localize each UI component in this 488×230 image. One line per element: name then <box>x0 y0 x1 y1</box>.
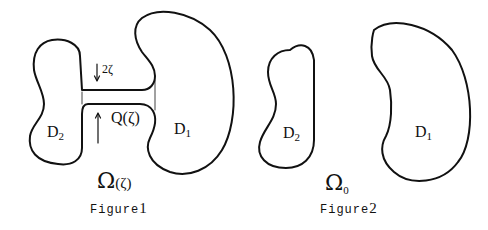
d2-subscript: 2 <box>295 131 301 143</box>
fig1-channel-label: Q(ζ) <box>111 110 140 126</box>
omega-symbol: Ω <box>97 168 115 193</box>
fig1-label-d1: D1 <box>174 121 191 139</box>
d1-letter: D <box>174 120 186 137</box>
fig1-region-label: Ω(ζ) <box>97 170 131 192</box>
omega-subscript: 0 <box>343 184 349 196</box>
figure2-d2-outline <box>259 45 314 168</box>
omega-symbol: Ω <box>325 170 343 195</box>
d2-subscript: 2 <box>59 130 65 142</box>
d2-letter: D <box>47 123 59 140</box>
figure2-d1-outline <box>371 23 470 181</box>
caption-text: Figure <box>320 203 369 217</box>
d2-letter: D <box>283 124 295 141</box>
fig2-caption: Figure2 <box>320 200 378 217</box>
caption-number: 2 <box>369 200 378 216</box>
d1-subscript: 1 <box>186 127 192 139</box>
fig1-caption: Figure1 <box>90 200 148 217</box>
fig2-region-label: Ω0 <box>325 172 349 196</box>
d1-letter: D <box>415 123 427 140</box>
omega-arg: (ζ) <box>115 175 131 191</box>
figure1-region-outline <box>30 12 234 174</box>
fig1-label-d2: D2 <box>47 124 64 142</box>
fig1-width-label: 2ζ <box>102 62 113 77</box>
d1-subscript: 1 <box>427 130 433 142</box>
caption-text: Figure <box>90 203 139 217</box>
fig2-label-d2: D2 <box>283 125 300 143</box>
figures-canvas <box>0 0 488 230</box>
caption-number: 1 <box>139 200 148 216</box>
fig2-label-d1: D1 <box>415 124 432 142</box>
